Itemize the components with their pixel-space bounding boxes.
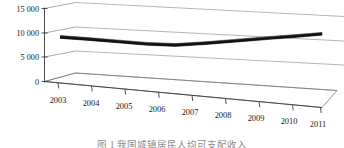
x-tick-2009 <box>259 102 260 108</box>
x-tick-2006 <box>159 92 160 98</box>
x-tick-label-2004: 2004 <box>83 99 101 108</box>
x-tick-label-2003: 2003 <box>50 96 67 105</box>
x-tick-label-2010: 2010 <box>281 117 298 126</box>
y-tick-label-10000: 10 000 <box>16 29 39 38</box>
x-tick-2007 <box>192 95 193 101</box>
three-d-line-chart: 15 000 10 000 5 000 0 2003 2004 <box>0 0 344 148</box>
x-tick-2005 <box>125 89 126 95</box>
gridlines <box>76 3 344 91</box>
x-tick-2011 <box>321 107 322 113</box>
x-tick-2004 <box>92 86 93 92</box>
series-ribbon-face <box>60 33 322 46</box>
x-tick-label-2009: 2009 <box>248 114 265 123</box>
x-tick-2008 <box>226 99 227 105</box>
chart-container: 15 000 10 000 5 000 0 2003 2004 <box>0 0 344 148</box>
x-tick-label-2011: 2011 <box>310 120 326 129</box>
x-tick-2003 <box>58 83 59 89</box>
gridline-15000 <box>76 3 344 17</box>
riser-15000 <box>45 3 76 9</box>
riser-10000 <box>45 27 76 33</box>
y-tick-label-5000: 5 000 <box>21 53 39 62</box>
x-tick-label-2007: 2007 <box>182 108 199 117</box>
figure-caption: 图 1 我国城镇居民人均可支配收入 <box>0 140 344 148</box>
y-tick-label-15000: 15 000 <box>16 5 39 14</box>
x-tick-label-2008: 2008 <box>215 111 232 120</box>
gridline-5000 <box>76 51 344 65</box>
x-tick-labels: 2003 2004 2005 2006 2007 2008 2009 2010 … <box>50 96 327 130</box>
riser-5000 <box>45 51 76 57</box>
data-series-1 <box>60 32 322 46</box>
x-tick-2010 <box>293 105 294 111</box>
x-tick-label-2006: 2006 <box>149 105 166 114</box>
x-tick-label-2005: 2005 <box>116 102 133 111</box>
y-tick-labels: 15 000 10 000 5 000 0 <box>16 5 39 87</box>
y-tick-label-0: 0 <box>35 78 39 87</box>
depth-risers <box>45 3 76 82</box>
